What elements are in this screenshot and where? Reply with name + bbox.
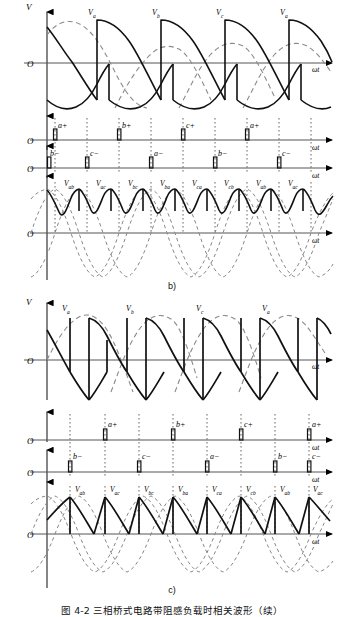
phase-label-c-0: Va	[62, 304, 70, 315]
panel-b-lower-pulses: O ωt b− c− a− b− c−	[27, 146, 332, 180]
panel-b-phase-labels: Va Vb Vc Va	[88, 8, 288, 19]
panel-b-caption: b)	[0, 281, 344, 291]
panel-b-upper-pulse-labels: a+ b+ c+ a+	[58, 121, 259, 130]
pulse-lower-b-3: b−	[218, 149, 227, 158]
origin-label-b1: O	[27, 59, 34, 69]
origin-label-b4: O	[27, 229, 34, 239]
origin-label-c3: O	[27, 468, 34, 478]
axis-label-omega-b3: ωt	[312, 171, 320, 180]
panel-b: V O ωt	[24, 2, 333, 280]
panel-c-phase-voltage: V O ωt	[24, 297, 332, 400]
axis-label-omega-c1: ωt	[312, 362, 320, 371]
origin-label-b3: O	[27, 164, 34, 174]
line-label-b-2: Vbc	[128, 179, 138, 190]
phase-label-c-1: Vb	[126, 304, 134, 315]
phase-label-b-0: Va	[88, 8, 96, 19]
panel-c-line-labels: Vab Vac Vbc Vba Vca Vcb Vab Vac	[75, 485, 323, 496]
phase-label-c-3: Va	[262, 304, 270, 315]
axis-label-v-c1: V	[26, 297, 33, 307]
pulse-upper-b-0: a+	[58, 121, 67, 130]
pulse-upper-b-3: a+	[250, 121, 259, 130]
pulse-upper-c-0: a+	[108, 420, 117, 429]
panel-c-phase-labels: Va Vb Vc Va	[62, 304, 270, 315]
line-label-c-6: Vab	[280, 485, 290, 496]
panel-c-lower-pulse-labels: b− c− a− b− c−	[73, 452, 321, 461]
line-label-b-1: Vac	[96, 179, 106, 190]
line-label-b-5: Vcb	[224, 179, 234, 190]
panel-b-line-voltage: O ωt	[27, 176, 333, 280]
axis-label-omega-b1: ωt	[312, 65, 320, 74]
line-label-b-0: Vab	[64, 179, 74, 190]
pulse-lower-c-3: b−	[278, 452, 287, 461]
pulse-lower-c-2: a−	[210, 452, 219, 461]
panel-c-lower-pulses: O ωt b− c− a− b− c−	[27, 450, 332, 484]
pulse-upper-c-3: a+	[312, 420, 321, 429]
line-label-b-3: Vba	[160, 179, 170, 190]
figure-caption: 图 4-2 三相桥式电路带阻感负载时相关波形（续）	[0, 603, 344, 617]
panel-b-pulse-shapes-lower	[48, 157, 281, 168]
line-label-b-7: Vac	[288, 179, 298, 190]
panel-b-line-labels: Vab Vac Vbc Vba Vca Vcb Vab Vac	[64, 179, 298, 190]
line-label-c-2: Vbc	[144, 485, 154, 496]
line-label-c-3: Vba	[178, 485, 188, 496]
pulse-lower-b-4: c−	[282, 149, 291, 158]
pulse-lower-b-1: c−	[90, 149, 99, 158]
line-label-c-1: Vac	[110, 485, 120, 496]
pulse-lower-c-0: b−	[73, 452, 82, 461]
line-label-c-0: Vab	[75, 485, 85, 496]
line-label-c-7: Vac	[313, 485, 323, 496]
phase-label-b-3: Va	[280, 8, 288, 19]
origin-label-c4: O	[27, 530, 34, 540]
phase-label-c-2: Vc	[196, 304, 204, 315]
panel-b-gridlines-upper	[55, 118, 311, 172]
axis-label-omega-c2: ωt	[312, 443, 320, 452]
pulse-lower-c-1: c−	[142, 452, 151, 461]
pulse-upper-c-2: c+	[244, 420, 253, 429]
pulse-upper-c-1: b+	[176, 420, 185, 429]
panel-c-upper-pulse-labels: a+ b+ c+ a+	[108, 420, 321, 429]
line-label-b-4: Vca	[192, 179, 202, 190]
line-label-b-6: Vab	[256, 179, 266, 190]
pulse-upper-b-2: c+	[186, 121, 195, 130]
origin-label-b2: O	[27, 136, 34, 146]
line-label-c-4: Vca	[212, 485, 222, 496]
origin-label-c2: O	[27, 436, 34, 446]
pulse-upper-b-1: b+	[122, 121, 131, 130]
panel-c-caption: c)	[0, 585, 344, 595]
phase-label-b-1: Vb	[152, 8, 160, 19]
axis-label-omega-c3: ωt	[312, 475, 320, 484]
panel-c-upper-pulses: O ωt	[27, 412, 332, 478]
origin-label-c1: O	[27, 356, 34, 366]
line-label-c-5: Vcb	[246, 485, 256, 496]
axis-label-v-b1: V	[26, 2, 33, 12]
pulse-lower-b-2: a−	[154, 149, 163, 158]
panel-c-line-voltage: O ωt	[27, 482, 333, 588]
axis-label-omega-b2: ωt	[312, 143, 320, 152]
pulse-lower-c-4: c−	[312, 452, 321, 461]
panel-b-phase-voltage: V O ωt	[24, 2, 332, 116]
panel-c: V O ωt	[24, 297, 333, 588]
phase-label-b-2: Vc	[216, 8, 224, 19]
panel-b-upper-pulses: O ωt	[27, 116, 332, 172]
pulse-lower-b-0: b−	[50, 149, 59, 158]
